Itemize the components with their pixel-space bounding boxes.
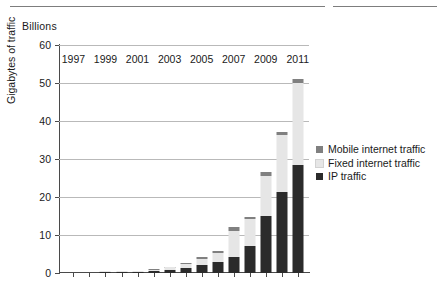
legend-item-mobile-internet-traffic[interactable]: Mobile internet traffic bbox=[316, 143, 442, 156]
chart-legend: Mobile internet trafficFixed internet tr… bbox=[316, 143, 442, 184]
legend-swatch-icon bbox=[316, 160, 323, 167]
bar-2009[interactable] bbox=[260, 172, 271, 273]
x-axis-tick bbox=[89, 273, 90, 277]
x-axis-tick bbox=[218, 273, 219, 277]
bar-2005[interactable] bbox=[196, 257, 207, 273]
bar-segment-ip bbox=[244, 246, 255, 273]
x-axis-tick bbox=[250, 273, 251, 277]
bar-2008[interactable] bbox=[244, 217, 255, 273]
legend-item-ip-traffic[interactable]: IP traffic bbox=[316, 170, 442, 183]
bar-segment-ip bbox=[228, 257, 239, 273]
y-axis-tick bbox=[55, 83, 59, 84]
bar-2006[interactable] bbox=[212, 251, 223, 273]
x-axis-tick bbox=[234, 273, 235, 277]
bar-segment-fixed bbox=[276, 135, 287, 193]
bar-1999[interactable] bbox=[100, 271, 111, 273]
bar-2010[interactable] bbox=[276, 132, 287, 273]
x-axis-tick bbox=[105, 273, 106, 277]
bar-2011[interactable] bbox=[292, 79, 303, 273]
bar-2004[interactable] bbox=[180, 263, 191, 273]
y-axis-tick bbox=[55, 273, 59, 274]
y-axis-tick bbox=[55, 235, 59, 236]
x-axis-label: 1997 bbox=[62, 53, 85, 65]
y-axis-label: 60 bbox=[39, 39, 51, 51]
gridline bbox=[59, 235, 309, 236]
x-axis-label: 2007 bbox=[222, 53, 245, 65]
y-axis-tick bbox=[55, 121, 59, 122]
bar-segment-fixed bbox=[292, 83, 303, 164]
legend-label: IP traffic bbox=[328, 170, 366, 183]
y-axis-label: 10 bbox=[39, 229, 51, 241]
x-axis-label: 1999 bbox=[94, 53, 117, 65]
bar-segment-fixed bbox=[228, 231, 239, 257]
legend-swatch-icon bbox=[316, 146, 323, 153]
y-axis-label: 30 bbox=[39, 153, 51, 165]
gridline bbox=[59, 121, 309, 122]
bar-2003[interactable] bbox=[164, 267, 175, 273]
x-axis-tick bbox=[170, 273, 171, 277]
x-axis-tick bbox=[122, 273, 123, 277]
gridline bbox=[59, 83, 309, 84]
x-axis-tick bbox=[186, 273, 187, 277]
bar-segment-ip bbox=[196, 265, 207, 273]
bar-segment-ip bbox=[260, 216, 271, 273]
bar-segment-fixed bbox=[212, 253, 223, 262]
plot-area: 0102030405060 19971999200120032005200720… bbox=[59, 45, 309, 273]
bar-2001[interactable] bbox=[132, 271, 143, 273]
x-axis-label: 2005 bbox=[190, 53, 213, 65]
y-axis-title: Gigabytes of traffic bbox=[5, 90, 17, 104]
bar-segment-ip bbox=[212, 262, 223, 273]
bar-segment-ip bbox=[116, 272, 127, 273]
units-caption: Billions bbox=[22, 20, 57, 32]
y-axis-label: 20 bbox=[39, 191, 51, 203]
bar-segment-ip bbox=[164, 270, 175, 273]
y-axis-tick bbox=[55, 45, 59, 46]
bar-segment-fixed bbox=[244, 219, 255, 246]
x-axis-label: 2011 bbox=[286, 53, 309, 65]
x-axis-tick bbox=[154, 273, 155, 277]
bar-segment-ip bbox=[180, 268, 191, 273]
bar-2002[interactable] bbox=[148, 269, 159, 273]
chart-figure: Billions Gigabytes of traffic 0102030405… bbox=[0, 0, 445, 304]
bar-segment-ip bbox=[132, 272, 143, 273]
bar-segment-ip bbox=[148, 271, 159, 273]
x-axis-tick bbox=[202, 273, 203, 277]
bar-segment-ip bbox=[292, 165, 303, 273]
bar-2007[interactable] bbox=[228, 227, 239, 273]
y-axis-label: 0 bbox=[45, 267, 51, 279]
y-axis-tick bbox=[55, 197, 59, 198]
header-rule-right bbox=[333, 6, 437, 7]
y-axis-label: 50 bbox=[39, 77, 51, 89]
gridline bbox=[59, 45, 309, 46]
y-axis-tick bbox=[55, 159, 59, 160]
y-axis-label: 40 bbox=[39, 115, 51, 127]
x-axis-tick bbox=[138, 273, 139, 277]
x-axis-tick bbox=[266, 273, 267, 277]
legend-swatch-icon bbox=[316, 173, 323, 180]
bar-2000[interactable] bbox=[116, 271, 127, 273]
legend-label: Mobile internet traffic bbox=[328, 143, 425, 156]
x-axis-label: 2001 bbox=[126, 53, 149, 65]
x-axis-label: 2009 bbox=[254, 53, 277, 65]
legend-item-fixed-internet-traffic[interactable]: Fixed internet traffic bbox=[316, 157, 442, 170]
gridline bbox=[59, 159, 309, 160]
x-axis-tick bbox=[73, 273, 74, 277]
bar-segment-ip bbox=[100, 272, 111, 273]
legend-label: Fixed internet traffic bbox=[328, 157, 420, 170]
x-axis-tick bbox=[282, 273, 283, 277]
bar-segment-ip bbox=[276, 192, 287, 273]
header-rule-left bbox=[10, 6, 325, 7]
x-axis-label: 2003 bbox=[158, 53, 181, 65]
gridline bbox=[59, 197, 309, 198]
bar-segment-fixed bbox=[260, 176, 271, 216]
x-axis-tick bbox=[298, 273, 299, 277]
